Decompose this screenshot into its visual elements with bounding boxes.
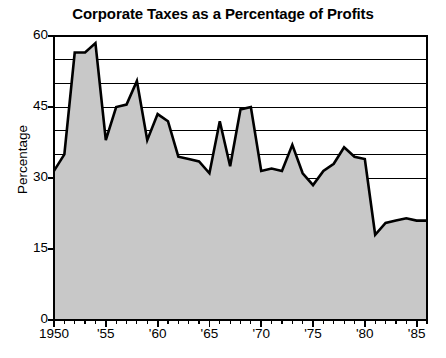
x-axis-tick-label: 1950	[39, 326, 69, 341]
x-axis-tick-label: '65	[201, 326, 219, 341]
x-axis-tick-label: '60	[149, 326, 167, 341]
area-series-group	[54, 43, 427, 320]
x-axis-tick-label: '80	[356, 326, 374, 341]
x-axis-tick-label: '75	[304, 326, 322, 341]
chart-plot-area	[0, 0, 446, 358]
x-axis-tick-label: '85	[408, 326, 426, 341]
x-axis-tick-label: '55	[97, 326, 115, 341]
area-fill	[54, 43, 427, 320]
x-axis-tick-labels: 1950'55'60'65'70'75'80'85	[0, 326, 446, 350]
chart-container: Corporate Taxes as a Percentage of Profi…	[0, 0, 446, 358]
x-axis-tick-label: '70	[252, 326, 270, 341]
